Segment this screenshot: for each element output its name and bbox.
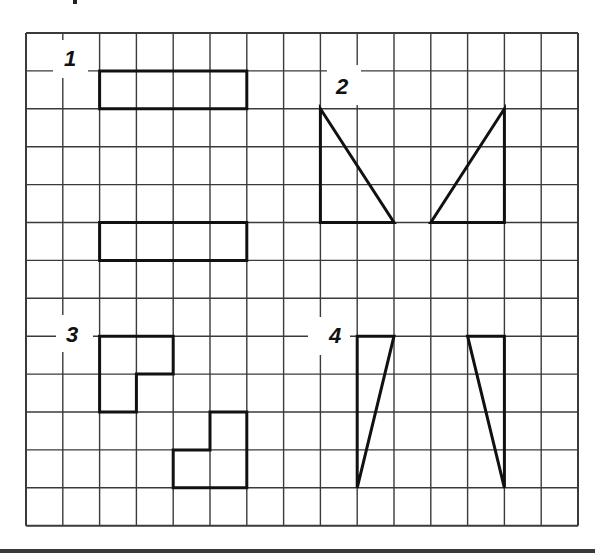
shapes-layer (100, 71, 505, 488)
page-bottom-rule (0, 549, 595, 553)
section-1-label: 1 (64, 48, 76, 70)
section-3-label: 3 (66, 324, 78, 346)
section-2-label: 2 (336, 76, 348, 98)
cropped-text-fragment (73, 0, 77, 4)
grid-canvas (0, 0, 595, 553)
grid-figure: 1 2 3 4 (0, 0, 595, 553)
section-4-label: 4 (329, 325, 341, 347)
